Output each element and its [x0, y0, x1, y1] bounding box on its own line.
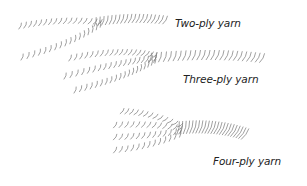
- four-ply-label: Four-ply yarn: [213, 155, 281, 167]
- three-ply-yarn-illustration: [64, 49, 265, 93]
- four-ply-yarn-illustration: [113, 108, 249, 153]
- three-ply-label: Three-ply yarn: [183, 73, 258, 85]
- two-ply-label: Two-ply yarn: [175, 17, 241, 29]
- yarn-diagram: Two-ply yarn Three-ply yarn Four-ply yar…: [0, 0, 307, 186]
